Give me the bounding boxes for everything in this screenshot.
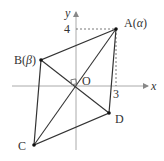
label-B: B(β) bbox=[14, 53, 36, 67]
point-D bbox=[107, 111, 111, 115]
y-axis-label: y bbox=[64, 6, 71, 20]
origin-label: O bbox=[82, 74, 91, 88]
x-axis-label: x bbox=[150, 79, 157, 93]
tick-x-3: 3 bbox=[113, 87, 119, 101]
point-B bbox=[39, 58, 43, 62]
point-C bbox=[32, 143, 36, 147]
tick-y-4: 4 bbox=[64, 22, 70, 36]
label-D: D bbox=[115, 112, 124, 126]
complex-plane-diagram: y x O 4 3 A(α) B(β) C D bbox=[0, 0, 164, 161]
label-A: A(α) bbox=[124, 16, 147, 30]
label-C: C bbox=[18, 139, 26, 153]
point-A bbox=[114, 27, 118, 31]
